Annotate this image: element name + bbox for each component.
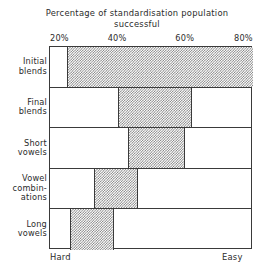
y-axis-category-label-initial-blends: Initial blends [1,57,47,76]
bar-row [50,209,251,250]
x-axis-tick-label-60: 60% [175,33,194,43]
y-axis-category-label-final-blends: Final blends [1,97,47,116]
y-axis-category-label-short-vowels: Short vowels [1,138,47,157]
bar-initial-blends [67,47,253,87]
plot-area [49,46,252,249]
axis-endpoint-label-easy: Easy [222,252,243,262]
bar-row [50,128,251,169]
bar-final-blends [118,88,192,128]
bar-row [50,47,251,88]
bar-long-vowels [70,209,114,250]
bar-vowel-combinations [94,169,138,209]
x-axis-tick-label-80: 80% [234,33,253,43]
bar-row [50,88,251,129]
bar-chart: Percentage of standardisation population… [0,0,271,274]
bar-row [50,169,251,210]
x-axis-tick-label-40: 40% [108,33,127,43]
y-axis-category-label-vowel-combinations: Vowel combin- ations [1,174,47,203]
axis-endpoint-label-hard: Hard [50,252,71,262]
chart-title: Percentage of standardisation population… [28,8,246,29]
bar-short-vowels [128,128,186,168]
x-axis-tick-label-20: 20% [50,33,69,43]
y-axis-category-label-long-vowels: Long vowels [1,219,47,238]
